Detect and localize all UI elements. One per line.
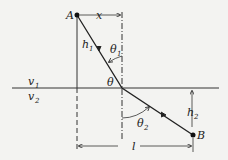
label-x: x [96,9,103,22]
ray-path [77,15,193,135]
point-a [75,13,80,18]
label-v1-sub: 1 [35,82,39,90]
label-theta1-sub: 1 [117,50,121,58]
diagram-canvas: A B x h 1 θ 1 θ v 1 v 2 θ 2 h 2 l [0,0,228,160]
refraction-diagram: A B x h 1 θ 1 θ v 1 v 2 θ 2 h 2 l [0,0,228,160]
theta2-arc [122,107,149,118]
label-theta2-sub: 2 [143,124,149,132]
label-theta2: θ [137,117,144,130]
label-h2-sub: 2 [193,113,199,121]
label-l: l [132,140,136,153]
label-theta1: θ [110,43,117,56]
label-v2: v [28,90,35,103]
label-b: B [196,129,205,142]
ray-arrow-1 [97,46,101,51]
label-v1: v [28,75,35,88]
label-v2-sub: 2 [34,97,40,105]
point-b [191,133,196,138]
label-theta: θ [107,76,114,89]
label-h1-sub: 1 [89,45,93,53]
label-a: A [65,9,74,22]
